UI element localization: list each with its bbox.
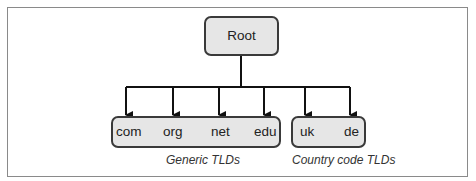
generic-tld-caption: Generic TLDs bbox=[166, 153, 240, 167]
node-de: de bbox=[344, 124, 359, 139]
node-edu: edu bbox=[254, 124, 277, 139]
country-tld-group: uk de bbox=[291, 116, 366, 148]
node-com: com bbox=[116, 124, 142, 139]
node-net: net bbox=[211, 124, 230, 139]
node-uk: uk bbox=[300, 124, 314, 139]
root-label: Root bbox=[206, 28, 277, 43]
generic-tld-group: com org net edu bbox=[111, 116, 281, 148]
node-org: org bbox=[163, 124, 183, 139]
root-node: Root bbox=[204, 16, 279, 56]
country-tld-caption: Country code TLDs bbox=[292, 153, 395, 167]
